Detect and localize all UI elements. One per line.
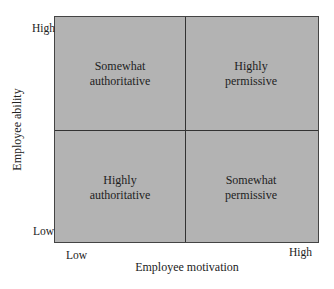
quadrant-text: permissive — [225, 74, 277, 88]
quadrant-somewhat-permissive: Somewhatpermissive — [186, 131, 316, 244]
quadrant-text: authoritative — [90, 74, 151, 88]
y-low-label: Low — [33, 225, 54, 237]
quadrant-text: authoritative — [90, 188, 151, 202]
quadrant-text: Highly — [234, 59, 267, 73]
quadrant-grid: Somewhatauthoritative Highlypermissive H… — [54, 16, 319, 243]
x-axis-title: Employee motivation — [0, 260, 334, 275]
x-high-label: High — [289, 246, 312, 258]
quadrant-highly-authoritative: Highlyauthoritative — [55, 131, 185, 244]
horizontal-divider — [55, 130, 318, 131]
quadrant-text: Highly — [103, 173, 136, 187]
quadrant-text: permissive — [225, 188, 277, 202]
quadrant-somewhat-authoritative: Somewhatauthoritative — [55, 17, 185, 130]
quadrant-text: Somewhat — [95, 59, 146, 73]
quadrant-highly-permissive: Highlypermissive — [186, 17, 316, 130]
y-high-label: High — [32, 22, 55, 34]
quadrant-text: Somewhat — [226, 173, 277, 187]
y-axis-title: Employee ability — [10, 75, 25, 185]
